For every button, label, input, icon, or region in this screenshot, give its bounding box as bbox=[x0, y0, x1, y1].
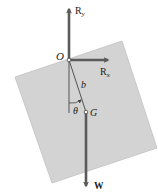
label-W: W bbox=[94, 181, 104, 191]
label-O: O bbox=[56, 50, 64, 62]
pivot-point bbox=[67, 58, 71, 62]
label-Ry: Ry bbox=[75, 5, 86, 18]
center-of-gravity-point bbox=[84, 110, 88, 114]
label-Ry-sub: y bbox=[81, 10, 86, 18]
pendulum-diagram: O G b θ Ry Rx W bbox=[0, 0, 158, 194]
label-theta: θ bbox=[73, 105, 78, 116]
label-G: G bbox=[90, 107, 97, 118]
label-b: b bbox=[81, 79, 86, 90]
